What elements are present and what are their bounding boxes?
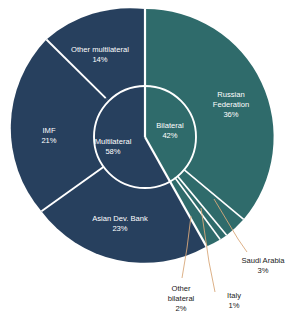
callout-saudi-arabia-pct: 3% <box>258 266 269 275</box>
label-multilateral-name: Multilateral <box>95 137 132 146</box>
callout-italy-pct: 1% <box>229 301 240 310</box>
label-russian-federation-line1: Russian <box>217 90 244 99</box>
label-russian-federation-pct: 36% <box>223 110 238 119</box>
callout-labels: Other bilateral 2% Italy 1% Saudi Arabia… <box>168 256 286 313</box>
label-imf-pct: 21% <box>41 136 56 145</box>
callout-other-bilateral-line1: Other <box>172 284 191 293</box>
callout-other-bilateral-pct: 2% <box>176 304 187 313</box>
label-bilateral-pct: 42% <box>162 131 177 140</box>
label-asian-dev-bank-pct: 23% <box>112 224 127 233</box>
label-bilateral-name: Bilateral <box>156 121 184 130</box>
label-other-multilateral-name: Other multilateral <box>71 45 129 54</box>
pie-chart-svg: Russian Federation 36% IMF 21% Asian Dev… <box>0 0 302 328</box>
callout-saudi-arabia-name: Saudi Arabia <box>241 256 285 265</box>
pie-chart-figure: Russian Federation 36% IMF 21% Asian Dev… <box>0 0 302 328</box>
label-russian-federation-line2: Federation <box>213 100 249 109</box>
label-imf-name: IMF <box>42 126 55 135</box>
label-other-multilateral-pct: 14% <box>92 55 107 64</box>
label-asian-dev-bank-name: Asian Dev. Bank <box>92 214 148 223</box>
callout-italy-name: Italy <box>227 291 241 300</box>
callout-other-bilateral-line2: bilateral <box>168 294 195 303</box>
label-multilateral-pct: 58% <box>105 147 120 156</box>
